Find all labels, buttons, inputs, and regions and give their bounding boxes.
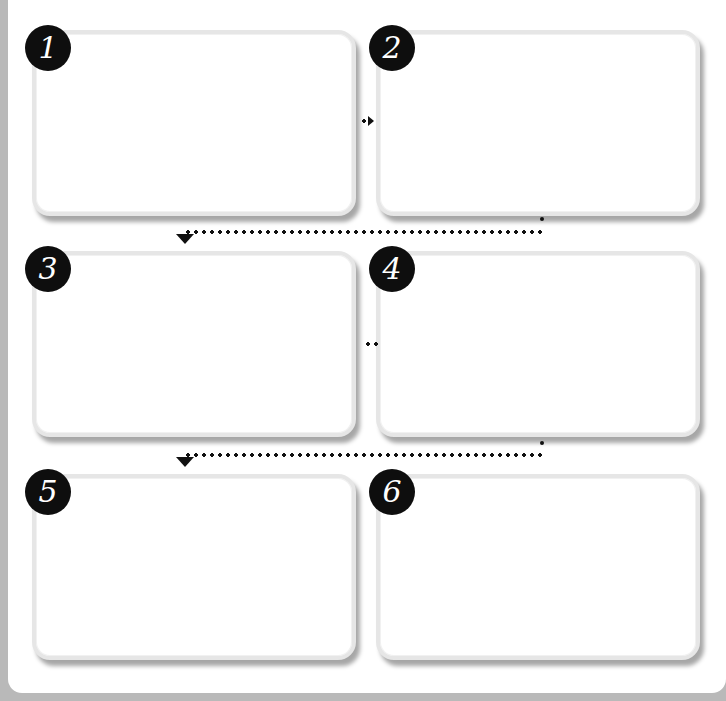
arrow-down-icon (176, 234, 194, 244)
panel-5[interactable] (32, 474, 356, 660)
step-number-badge-5: 5 (25, 469, 71, 515)
connector-3-4-dots (364, 342, 380, 346)
arrow-right-icon (368, 116, 374, 126)
panel-6[interactable] (376, 474, 700, 660)
arrow-down-icon (176, 457, 194, 467)
panel-1[interactable] (32, 30, 356, 216)
connector-4-5-start-dot (540, 441, 544, 445)
connector-4-5-dots (184, 453, 546, 457)
panel-2[interactable] (376, 30, 700, 216)
step-number-badge-3: 3 (25, 246, 71, 292)
connector-2-3-dots (184, 230, 546, 234)
step-number-badge-2: 2 (369, 25, 415, 71)
panel-3[interactable] (32, 251, 356, 437)
step-number-badge-6: 6 (369, 469, 415, 515)
storyboard-sheet: 1 2 3 4 5 6 (8, 0, 726, 693)
step-number-badge-4: 4 (369, 246, 415, 292)
panel-4[interactable] (376, 251, 700, 437)
connector-2-3-start-dot (540, 217, 544, 221)
step-number-badge-1: 1 (25, 25, 71, 71)
